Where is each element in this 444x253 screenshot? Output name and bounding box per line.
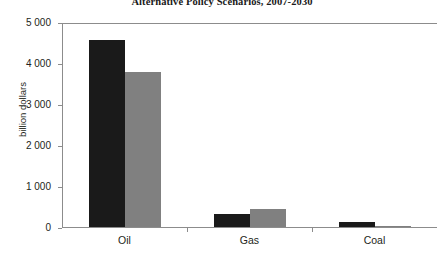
x-category-label-gas: Gas (210, 234, 290, 246)
bar-coal-series-2-grey (375, 226, 411, 227)
y-tick-label: 1 000 (0, 182, 51, 192)
y-tick-mark (58, 187, 62, 188)
x-tick-mark (312, 228, 313, 232)
y-tick-label: 0 (0, 223, 51, 233)
axis-top-line (62, 23, 437, 24)
x-axis-line (62, 227, 437, 228)
y-tick-mark (58, 228, 62, 229)
chart-title: Alternative Policy Scenarios, 2007-2030 (0, 0, 444, 8)
chart-figure: Alternative Policy Scenarios, 2007-2030 … (0, 0, 444, 253)
bar-gas-series-2-grey (250, 209, 286, 227)
y-tick-label: 5 000 (0, 18, 51, 28)
y-tick-label: 4 000 (0, 59, 51, 69)
bar-gas-series-1-dark (214, 214, 250, 227)
bar-oil-series-2-grey (125, 72, 161, 227)
x-tick-mark (187, 228, 188, 232)
y-tick-mark (58, 105, 62, 106)
y-tick-mark (58, 64, 62, 65)
x-category-label-coal: Coal (335, 234, 415, 246)
y-tick-mark (58, 146, 62, 147)
bar-oil-series-1-dark (89, 40, 125, 227)
y-axis-line (62, 23, 63, 228)
x-category-label-oil: Oil (85, 234, 165, 246)
y-tick-mark (58, 23, 62, 24)
plot-area: 5 0004 0003 0002 0001 0000 (62, 23, 437, 228)
y-tick-label: 3 000 (0, 100, 51, 110)
y-tick-label: 2 000 (0, 141, 51, 151)
bar-coal-series-1-dark (339, 222, 375, 227)
